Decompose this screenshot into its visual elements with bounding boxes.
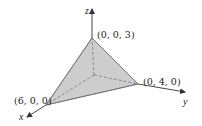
z-axis-label: z <box>85 6 89 16</box>
x-axis-label: x <box>19 112 23 122</box>
vertex-label-z: (0, 0, 3) <box>97 30 135 40</box>
x-axis <box>27 105 46 117</box>
y-axis-label: y <box>183 97 187 107</box>
tetrahedron-diagram: z y x (0, 0, 3) (0, 4, 0) (6, 0, 0) <box>0 0 202 126</box>
diagram-canvas <box>0 0 202 126</box>
plane-face <box>46 38 138 105</box>
vertex-label-x: (6, 0, 0) <box>14 96 52 106</box>
vertex-label-y: (0, 4, 0) <box>143 77 181 87</box>
